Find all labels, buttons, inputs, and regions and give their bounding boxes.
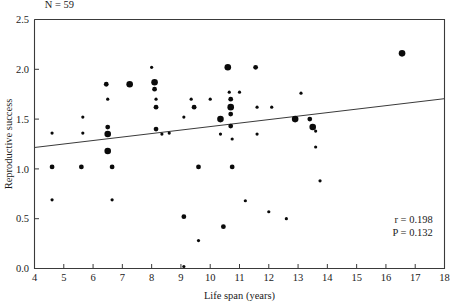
data-point	[230, 165, 235, 170]
data-point	[299, 92, 302, 95]
data-point	[227, 104, 234, 111]
data-point	[190, 98, 193, 101]
tick-labels-group: 4567891011121314151617180.00.51.01.52.02…	[16, 14, 450, 283]
p-value: P = 0.132	[393, 227, 433, 238]
data-point	[81, 116, 84, 119]
data-point	[221, 224, 226, 229]
data-point	[105, 125, 110, 130]
data-point	[399, 50, 406, 57]
data-point	[154, 105, 159, 110]
x-tick-label: 7	[120, 272, 125, 283]
data-point	[182, 265, 185, 268]
data-point	[255, 106, 258, 109]
ticks-group	[35, 20, 445, 269]
data-point	[50, 165, 55, 170]
data-point	[154, 127, 159, 132]
data-point	[228, 124, 233, 129]
scatter-plot-figure: 4567891011121314151617180.00.51.01.52.02…	[0, 0, 463, 308]
y-tick-label: 0.5	[16, 213, 29, 224]
trendline-group	[35, 99, 445, 148]
data-point	[255, 132, 258, 135]
data-point	[318, 179, 321, 182]
annotations-group: N = 59r = 0.198P = 0.132	[45, 0, 433, 238]
data-point	[81, 131, 84, 134]
x-tick-label: 12	[264, 272, 275, 283]
data-point	[228, 112, 233, 117]
regression-line	[35, 99, 445, 148]
data-point	[314, 129, 317, 132]
x-tick-label: 11	[234, 272, 244, 283]
data-point	[307, 117, 312, 122]
data-point	[217, 116, 224, 123]
data-point	[160, 132, 163, 135]
x-tick-label: 8	[149, 272, 154, 283]
x-tick-label: 17	[410, 272, 421, 283]
data-point	[209, 98, 212, 101]
y-axis-title: Reproductive success	[3, 99, 14, 190]
data-point	[219, 132, 222, 135]
data-point	[104, 148, 111, 155]
data-point	[231, 137, 234, 140]
data-point	[182, 116, 185, 119]
data-point	[267, 210, 270, 213]
data-point	[314, 145, 317, 148]
data-point	[168, 131, 171, 134]
y-tick-label: 2.0	[16, 64, 29, 75]
data-point	[50, 198, 53, 201]
data-point	[110, 165, 115, 170]
data-point	[192, 105, 197, 110]
y-tick-label: 0.0	[16, 263, 29, 274]
data-point	[150, 66, 153, 69]
x-tick-label: 18	[439, 272, 450, 283]
x-tick-label: 15	[351, 272, 362, 283]
x-axis-title: Life span (years)	[204, 290, 276, 302]
x-tick-label: 4	[32, 272, 38, 283]
x-tick-label: 6	[90, 272, 95, 283]
plot-canvas: 4567891011121314151617180.00.51.01.52.02…	[0, 0, 463, 308]
data-point	[224, 64, 231, 71]
data-point	[181, 214, 186, 219]
data-point	[238, 91, 241, 94]
data-point	[197, 239, 200, 242]
sample-size: N = 59	[45, 0, 74, 10]
data-point	[196, 165, 201, 170]
x-tick-label: 9	[178, 272, 183, 283]
data-point	[228, 91, 231, 94]
data-point	[228, 97, 233, 102]
data-point	[154, 98, 157, 101]
data-points-group	[50, 50, 406, 268]
data-point	[285, 217, 288, 220]
y-tick-label: 2.5	[16, 14, 29, 25]
x-tick-label: 14	[322, 272, 333, 283]
data-point	[292, 116, 299, 123]
axes-group	[35, 20, 445, 269]
data-point	[50, 131, 53, 134]
data-point	[270, 106, 273, 109]
plot-frame	[35, 20, 445, 269]
x-tick-label: 5	[61, 272, 66, 283]
data-point	[111, 198, 114, 201]
data-point	[126, 81, 133, 88]
y-tick-label: 1.0	[16, 164, 29, 175]
data-point	[79, 165, 84, 170]
data-point	[104, 82, 109, 87]
data-point	[152, 87, 157, 92]
correlation-coefficient: r = 0.198	[394, 214, 432, 225]
data-point	[106, 98, 109, 101]
data-point	[309, 124, 316, 131]
x-tick-label: 16	[381, 272, 392, 283]
x-tick-label: 13	[293, 272, 304, 283]
x-tick-label: 10	[205, 272, 216, 283]
data-point	[104, 131, 111, 138]
y-tick-label: 1.5	[16, 114, 29, 125]
data-point	[253, 65, 258, 70]
data-point	[151, 79, 158, 86]
data-point	[244, 199, 247, 202]
